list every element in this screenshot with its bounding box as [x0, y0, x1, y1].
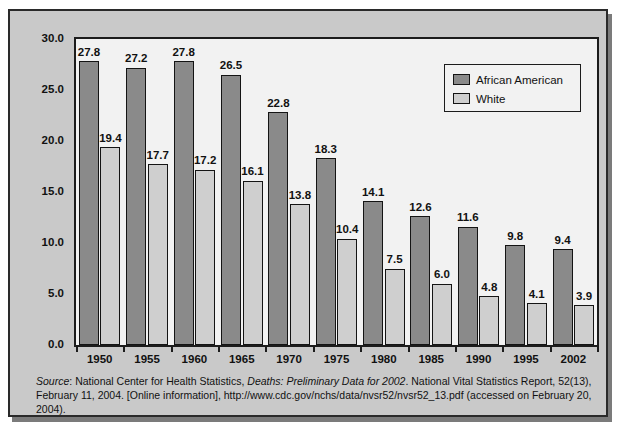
- figure-root: Deaths per 1,000 births 0.05.010.015.020…: [0, 0, 627, 438]
- bar-value-label: 4.8: [472, 282, 506, 294]
- x-tick-mark: [550, 345, 552, 352]
- bar-african-american-1975: [316, 158, 336, 345]
- y-tick-label: 10.0: [22, 237, 64, 249]
- bar-value-label: 18.3: [309, 144, 343, 156]
- bar-white-1960: [195, 170, 215, 345]
- bar-value-label: 10.4: [330, 224, 364, 236]
- bar-african-american-1955: [126, 68, 146, 345]
- bar-value-label: 26.5: [214, 60, 248, 72]
- bar-value-label: 7.5: [378, 254, 412, 266]
- y-tick-label: 25.0: [22, 84, 64, 96]
- bar-african-american-1970: [268, 112, 288, 345]
- bar-african-american-1965: [221, 75, 241, 345]
- x-tick-mark: [408, 345, 410, 352]
- x-tick-mark: [76, 345, 78, 352]
- source-report-title: Deaths: Preliminary Data for 2002: [247, 375, 405, 387]
- figure-panel: Deaths per 1,000 births 0.05.010.015.020…: [8, 9, 608, 417]
- x-tick-mark: [171, 345, 173, 352]
- bar-value-label: 9.8: [498, 231, 532, 243]
- bar-white-1985: [432, 284, 452, 345]
- bar-white-1970: [290, 204, 310, 345]
- bar-value-label: 14.1: [356, 187, 390, 199]
- bar-white-1965: [243, 181, 263, 345]
- bar-african-american-1980: [363, 201, 383, 345]
- x-tick-mark: [502, 345, 504, 352]
- bar-white-1990: [479, 296, 499, 345]
- source-caption: Source: National Center for Health Stati…: [36, 375, 592, 417]
- x-tick-mark: [360, 345, 362, 352]
- bar-white-1980: [385, 269, 405, 346]
- bar-value-label: 12.6: [403, 202, 437, 214]
- bar-african-american-1950: [79, 61, 99, 345]
- bar-value-label: 11.6: [451, 212, 485, 224]
- bar-value-label: 27.8: [72, 47, 106, 59]
- bar-value-label: 19.4: [93, 133, 127, 145]
- bar-value-label: 9.4: [546, 235, 580, 247]
- bar-value-label: 27.8: [167, 47, 201, 59]
- bar-african-american-1960: [174, 61, 194, 345]
- source-rest-line1: . National Vital Statistics Report, 52(1…: [405, 375, 591, 387]
- source-line2: February 11, 2004. [Online information],…: [36, 389, 529, 401]
- bar-white-2002: [574, 305, 594, 345]
- y-tick-label: 15.0: [22, 186, 64, 198]
- bar-value-label: 4.1: [520, 289, 554, 301]
- x-tick-mark: [597, 345, 599, 352]
- legend-label-white: White: [476, 93, 505, 105]
- legend-item-white: White: [453, 89, 580, 108]
- bar-white-1950: [100, 147, 120, 345]
- bar-value-label: 22.8: [261, 98, 295, 110]
- source-agency: National Center for Health Statistics,: [75, 375, 247, 387]
- bar-value-label: 16.1: [236, 166, 270, 178]
- bar-value-label: 3.9: [567, 291, 601, 303]
- bar-value-label: 13.8: [283, 190, 317, 202]
- x-tick-mark: [218, 345, 220, 352]
- y-tick-label: 20.0: [22, 135, 64, 147]
- bar-value-label: 17.2: [188, 155, 222, 167]
- x-tick-mark: [123, 345, 125, 352]
- source-prefix-label: Source: [36, 375, 69, 387]
- bar-white-1995: [527, 303, 547, 345]
- x-tick-mark: [313, 345, 315, 352]
- y-tick-label: 5.0: [22, 288, 64, 300]
- bar-white-1955: [148, 164, 168, 345]
- bar-value-label: 17.7: [141, 150, 175, 162]
- x-tick-label: 2002: [543, 354, 603, 366]
- y-tick-label: 30.0: [22, 33, 64, 45]
- legend-label-african-american: African American: [476, 74, 563, 86]
- legend-item-african-american: African American: [453, 70, 580, 89]
- chart-legend: African American White: [444, 64, 581, 112]
- x-tick-mark: [455, 345, 457, 352]
- legend-swatch-icon-white: [453, 93, 470, 104]
- y-tick-label: 0.0: [22, 339, 64, 351]
- bar-white-1975: [337, 239, 357, 345]
- legend-swatch-icon-african-american: [453, 74, 470, 85]
- bar-value-label: 6.0: [425, 269, 459, 281]
- x-tick-mark: [265, 345, 267, 352]
- bar-value-label: 27.2: [119, 53, 153, 65]
